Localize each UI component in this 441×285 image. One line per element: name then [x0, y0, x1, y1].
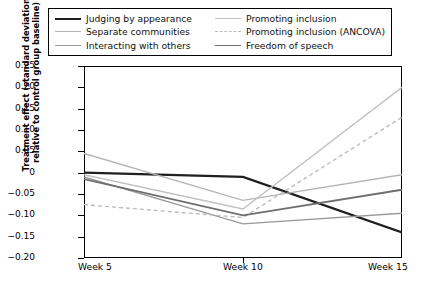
legend-swatch-icon: [215, 45, 241, 46]
legend-label: Judging by appearance: [86, 14, 192, 23]
legend-item-separate-communities: Separate communities: [55, 27, 215, 36]
legend-item-freedom-of-speech: Freedom of speech: [215, 41, 393, 50]
y-tick-label: 0.20: [0, 82, 35, 91]
y-tick-label: −0.20: [0, 253, 35, 262]
y-tick-label: 0.15: [0, 104, 35, 113]
legend-label: Separate communities: [86, 27, 190, 36]
chart-legend: Judging by appearance Promoting inclusio…: [48, 8, 392, 56]
legend-label: Promoting inclusion (ANCOVA): [246, 27, 385, 36]
y-tick-label: 0: [0, 168, 35, 177]
y-tick-label: 0.25: [0, 61, 35, 70]
legend-item-judging-by-appearance: Judging by appearance: [55, 14, 215, 23]
legend-grid: Judging by appearance Promoting inclusio…: [55, 12, 385, 52]
legend-item-interacting-with-others: Interacting with others: [55, 41, 215, 50]
y-tick-label: 0.05: [0, 146, 35, 155]
legend-item-promoting-inclusion: Promoting inclusion: [215, 14, 393, 23]
plot-area: [84, 66, 402, 258]
legend-swatch-icon: [215, 31, 241, 32]
x-tick-label: Week 15: [368, 262, 408, 271]
legend-label: Freedom of speech: [246, 41, 333, 50]
legend-label: Promoting inclusion: [246, 14, 336, 23]
legend-swatch-icon: [55, 45, 81, 46]
x-tick-mark: [243, 258, 244, 263]
legend-swatch-icon: [55, 18, 81, 20]
x-tick-label: Week 10: [223, 262, 263, 271]
legend-label: Interacting with others: [86, 41, 191, 50]
legend-swatch-icon: [215, 18, 241, 19]
y-tick-label: −0.15: [0, 232, 35, 241]
y-tick-label: −0.10: [0, 210, 35, 219]
legend-item-promoting-inclusion-ancova: Promoting inclusion (ANCOVA): [215, 27, 393, 36]
y-tick-label: −0.05: [0, 189, 35, 198]
y-tick-label: 0.10: [0, 125, 35, 134]
x-tick-label: Week 5: [78, 262, 112, 271]
chart-series-lines: [84, 66, 402, 258]
legend-swatch-icon: [55, 31, 81, 32]
y-tick-mark: [78, 258, 84, 259]
